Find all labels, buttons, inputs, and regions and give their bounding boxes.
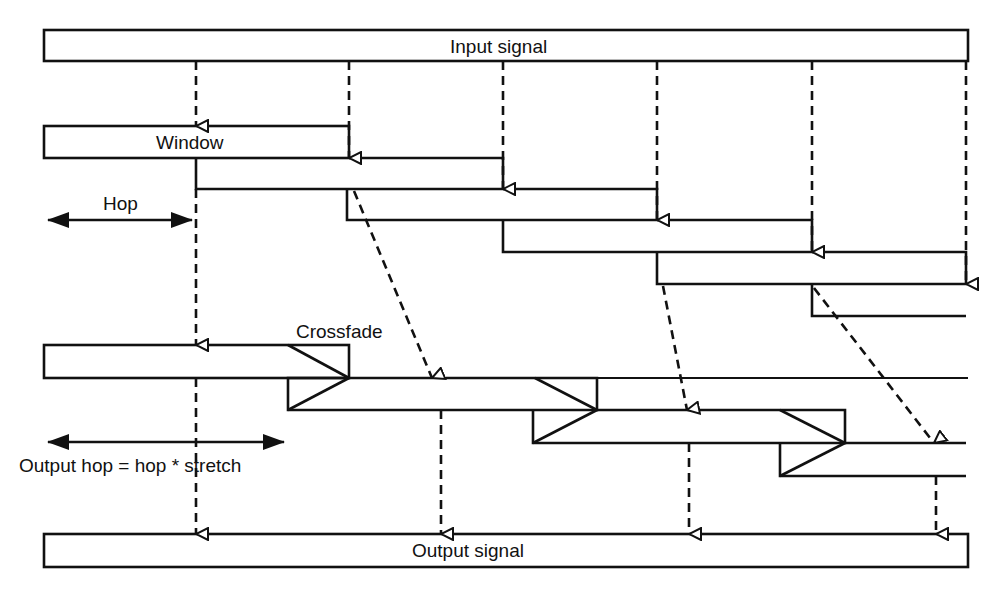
window-label: Window bbox=[156, 133, 224, 152]
output-hop-label: Output hop = hop * stretch bbox=[19, 456, 241, 475]
output-window-3 bbox=[533, 410, 845, 443]
analysis-window-5 bbox=[657, 252, 966, 284]
crossfade-out-1 bbox=[288, 345, 349, 378]
output-window-2 bbox=[288, 378, 597, 410]
crossfade-in-2 bbox=[288, 378, 349, 410]
analysis-window-2 bbox=[196, 158, 503, 189]
crossfade-out-3 bbox=[780, 410, 845, 443]
input-hop-arrows bbox=[196, 61, 966, 284]
crossfade-out-2 bbox=[535, 378, 597, 410]
output-signal-label: Output signal bbox=[412, 541, 524, 560]
analysis-window-4 bbox=[503, 220, 812, 252]
output-window-1 bbox=[44, 345, 349, 378]
input-signal-label: Input signal bbox=[450, 37, 547, 56]
hop-label: Hop bbox=[103, 194, 138, 213]
crossfade-label: Crossfade bbox=[296, 322, 383, 341]
time-stretch-diagram bbox=[0, 0, 997, 600]
crossfade-in-4 bbox=[780, 443, 845, 476]
analysis-window-6 bbox=[812, 284, 966, 316]
crossfade-in-3 bbox=[533, 410, 597, 443]
analysis-window-3 bbox=[347, 189, 657, 220]
